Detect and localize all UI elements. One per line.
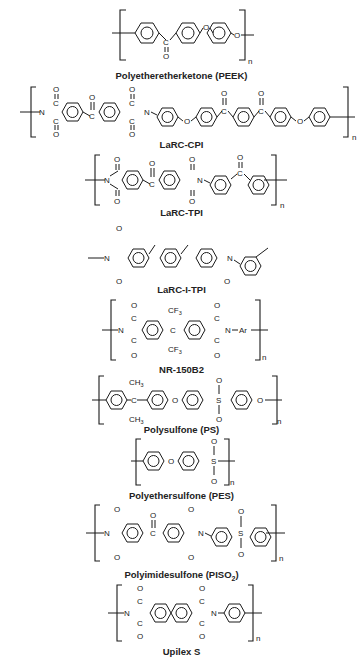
atom-o: O xyxy=(238,550,244,559)
atom-c: C xyxy=(221,107,227,116)
atom-n: N xyxy=(227,254,233,263)
atom-c: C xyxy=(150,529,156,538)
polyimidesulfone-structure-drawing: N O O C O O O N S O O n xyxy=(0,503,363,563)
atom-n: N xyxy=(197,176,203,185)
label-pes-text: Polyethersulfone (PES) xyxy=(129,490,234,501)
atom-o: O xyxy=(297,117,303,126)
atom-c: C xyxy=(129,99,135,108)
atom-c: C xyxy=(214,336,220,345)
atom-c: C xyxy=(131,336,137,345)
label-piso2-end: ) xyxy=(235,569,238,580)
atom-c: C xyxy=(199,619,205,628)
atom-c: C xyxy=(129,117,135,126)
structure-peek: C O O O n xyxy=(0,0,363,80)
atom-o: O xyxy=(137,632,143,641)
atom-o: O xyxy=(199,632,205,641)
peek-structure-drawing: C O O O n xyxy=(0,0,363,80)
label-peek: Polyetheretherketone (PEEK) xyxy=(0,70,363,81)
atom-o: O xyxy=(168,457,174,466)
atom-o: O xyxy=(129,130,135,139)
atom-n: N xyxy=(225,326,231,335)
atom-o: O xyxy=(214,351,220,360)
polysulfone-structure-drawing: C CH3 CH3 O S O O O n xyxy=(0,374,363,426)
structure-larc-i-tpi: N O O O N xyxy=(0,240,363,288)
structure-upilex-s: N C C O O C C O O N n xyxy=(0,583,363,643)
atom-o: O xyxy=(216,376,222,385)
atom-o: O xyxy=(53,85,59,94)
atom-n: N xyxy=(198,529,204,538)
atom-c: C xyxy=(137,619,143,628)
repeat-n: n xyxy=(279,554,283,563)
repeat-n: n xyxy=(230,478,234,487)
atom-o: O xyxy=(150,511,156,520)
atom-o: O xyxy=(172,396,178,405)
label-polyimidesulfone: Polyimidesulfone (PISO2) xyxy=(0,569,363,582)
atom-o: O xyxy=(188,553,194,562)
cf3-bottom: CF3 xyxy=(168,345,182,355)
atom-n: N xyxy=(39,108,45,117)
atom-o: O xyxy=(199,584,205,593)
atom-c: C xyxy=(170,326,176,335)
structure-larc-tpi: N O O C O O O N C O n xyxy=(0,152,363,208)
atom-c: C xyxy=(89,112,95,121)
atom-o: O xyxy=(114,197,120,206)
atom-o: O xyxy=(131,351,137,360)
atom-o: O xyxy=(114,553,120,562)
cf3-top: CF3 xyxy=(168,306,182,316)
atom-ar: Ar xyxy=(239,326,247,335)
atom-o: O xyxy=(114,155,120,164)
atom-s: S xyxy=(238,529,243,538)
atom-o: O xyxy=(89,93,95,102)
atom-o: O xyxy=(189,155,195,164)
atom-n: N xyxy=(144,108,150,117)
atom-n: N xyxy=(211,609,217,618)
atom-o: O xyxy=(53,130,59,139)
upilex-s-structure-drawing: N C C O O C C O O N n xyxy=(0,583,363,643)
atom-o: O xyxy=(258,89,264,98)
larc-tpi-structure-drawing: N O O C O O O N C O n xyxy=(0,152,363,208)
atom-c: C xyxy=(53,117,59,126)
atom-c: C xyxy=(199,597,205,606)
repeat-n: n xyxy=(256,634,260,643)
structure-polyimidesulfone: N O O C O O O N S O O n xyxy=(0,503,363,563)
atom-o: O xyxy=(116,224,122,233)
atom-o: O xyxy=(234,31,240,40)
atom-o: O xyxy=(211,437,217,446)
atom-o: O xyxy=(238,507,244,516)
atom-c: C xyxy=(131,396,137,405)
atom-o: O xyxy=(149,159,155,168)
label-larc-tpi: LaRC-TPI xyxy=(0,207,363,218)
atom-o: O xyxy=(221,89,227,98)
atom-n: N xyxy=(124,609,130,618)
atom-n: N xyxy=(104,254,110,263)
atom-c: C xyxy=(53,99,59,108)
label-piso2-text: Polyimidesulfone (PISO xyxy=(124,569,231,580)
label-larc-cpi: LaRC-CPI xyxy=(0,139,363,150)
structure-larc-cpi: N C C O O C O C C O O N O C O xyxy=(0,84,363,140)
larc-cpi-structure-drawing: N C C O O C O C C O O N O C O xyxy=(0,84,363,140)
atom-c: C xyxy=(258,107,264,116)
atom-o: O xyxy=(189,197,195,206)
larc-i-tpi-structure-drawing: N O O O N xyxy=(0,240,363,288)
label-upilex-s: Upilex S xyxy=(0,646,363,657)
atom-c: C xyxy=(163,38,169,47)
atom-o: O xyxy=(211,477,217,486)
atom-n: N xyxy=(104,176,110,185)
atom-n: N xyxy=(118,326,124,335)
atom-o: O xyxy=(163,52,169,61)
atom-o: O xyxy=(257,396,263,405)
label-larc-i-tpi: LaRC-I-TPI xyxy=(0,284,363,295)
ch3-top: CH3 xyxy=(129,378,144,388)
atom-c: C xyxy=(237,169,243,178)
atom-o: O xyxy=(137,584,143,593)
label-polysulfone: Polysulfone (PS) xyxy=(0,424,363,435)
atom-o: O xyxy=(131,301,137,310)
repeat-n: n xyxy=(248,57,252,66)
atom-c: C xyxy=(131,314,137,323)
label-polyethersulfone: Polyethersulfone (PES) xyxy=(0,490,363,501)
atom-o: O xyxy=(216,415,222,424)
atom-o: O xyxy=(184,117,190,126)
atom-s: S xyxy=(216,396,221,405)
atom-n: N xyxy=(104,529,110,538)
atom-c: C xyxy=(137,597,143,606)
